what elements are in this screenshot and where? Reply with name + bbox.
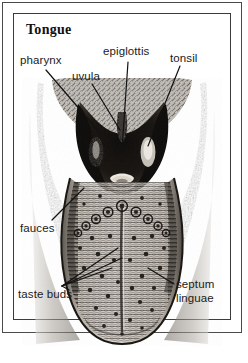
label-pharynx: pharynx (20, 54, 62, 67)
label-tonsil: tonsil (170, 52, 197, 65)
tongue-illustration (22, 78, 222, 346)
anatomy-plate: Tongue (0, 0, 248, 363)
label-septum-linguae: septum linguae (176, 277, 214, 305)
label-septum-line2: linguae (176, 291, 214, 305)
label-septum-line1: septum (176, 277, 214, 291)
label-uvula: uvula (72, 70, 100, 83)
label-taste-buds: taste buds (18, 288, 72, 301)
page-title: Tongue (26, 22, 72, 38)
label-fauces: fauces (20, 222, 54, 235)
label-epiglottis: epiglottis (103, 45, 149, 58)
